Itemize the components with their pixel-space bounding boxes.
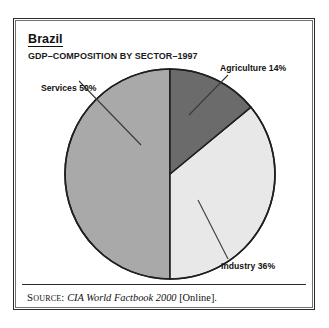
pie-label-industry: Industry 36% <box>221 261 275 271</box>
pie-slice-services[interactable] <box>65 69 170 279</box>
figure-inner-frame: Brazil GDP–COMPOSITION BY SECTOR–1997 Se… <box>15 20 313 308</box>
source-title: CIA World Factbook 2000 <box>67 292 176 303</box>
pie-label-agriculture: Agriculture 14% <box>220 63 286 73</box>
source-medium: [Online]. <box>179 292 217 303</box>
pie-label-services: Services 50% <box>41 83 97 93</box>
source-kicker: Source: <box>27 291 65 303</box>
source-divider <box>22 284 306 285</box>
figure-frame: Brazil GDP–COMPOSITION BY SECTOR–1997 Se… <box>13 18 315 310</box>
source-note: Source: CIA World Factbook 2000 [Online]… <box>27 291 217 303</box>
